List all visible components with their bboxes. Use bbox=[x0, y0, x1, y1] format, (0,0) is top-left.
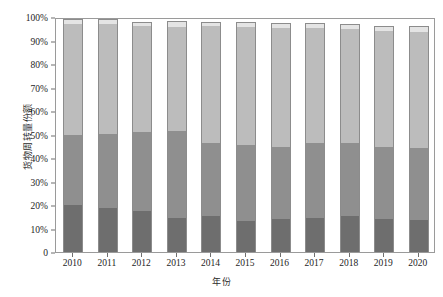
x-tick-mark bbox=[141, 253, 142, 257]
y-tick-label: 40% bbox=[8, 154, 48, 164]
y-tick-mark bbox=[51, 65, 55, 66]
bar-stack[interactable] bbox=[201, 22, 221, 252]
bar-stack[interactable] bbox=[340, 24, 360, 252]
y-tick-label: 90% bbox=[8, 37, 48, 47]
bar-stack[interactable] bbox=[167, 21, 187, 252]
bar-segment[interactable] bbox=[340, 29, 360, 142]
x-tick-mark bbox=[314, 253, 315, 257]
bar-segment[interactable] bbox=[167, 27, 187, 131]
bar-segment[interactable] bbox=[63, 24, 83, 135]
bar-stack[interactable] bbox=[63, 19, 83, 252]
bar-segment[interactable] bbox=[236, 27, 256, 145]
bar-group[interactable] bbox=[374, 19, 394, 252]
bar-stack[interactable] bbox=[374, 26, 394, 252]
bar-segment[interactable] bbox=[305, 28, 325, 143]
bar-segment[interactable] bbox=[98, 24, 118, 134]
bar-stack[interactable] bbox=[236, 22, 256, 252]
bar-segment[interactable] bbox=[63, 205, 83, 252]
x-tick-mark bbox=[349, 253, 350, 257]
y-tick-mark bbox=[51, 112, 55, 113]
y-tick-label: 100% bbox=[8, 13, 48, 23]
bar-segment[interactable] bbox=[63, 135, 83, 205]
x-axis-title: 年份 bbox=[0, 275, 443, 288]
bar-segment[interactable] bbox=[132, 211, 152, 252]
bar-segment[interactable] bbox=[340, 143, 360, 217]
y-tick-mark bbox=[51, 159, 55, 160]
bar-segment[interactable] bbox=[340, 216, 360, 252]
bar-segment[interactable] bbox=[236, 221, 256, 252]
y-tick-label: 20% bbox=[8, 201, 48, 211]
bar-segment[interactable] bbox=[132, 26, 152, 132]
plot-area bbox=[55, 18, 435, 253]
x-tick-label: 2020 bbox=[396, 258, 440, 268]
stacked-bar-chart: 货物周转量份额 010%20%30%40%50%60%70%80%90%100%… bbox=[0, 0, 443, 297]
bar-stack[interactable] bbox=[271, 23, 291, 252]
bar-stack[interactable] bbox=[409, 26, 429, 252]
bar-segment[interactable] bbox=[409, 220, 429, 252]
bar-group[interactable] bbox=[201, 19, 221, 252]
x-tick-mark bbox=[418, 253, 419, 257]
bar-segment[interactable] bbox=[236, 145, 256, 221]
bar-stack[interactable] bbox=[305, 23, 325, 252]
bar-segment[interactable] bbox=[271, 28, 291, 147]
y-tick-label: 80% bbox=[8, 60, 48, 70]
x-tick-mark bbox=[72, 253, 73, 257]
bar-group[interactable] bbox=[98, 19, 118, 252]
y-tick-label: 30% bbox=[8, 178, 48, 188]
bar-group[interactable] bbox=[167, 19, 187, 252]
x-tick-mark bbox=[176, 253, 177, 257]
bar-segment[interactable] bbox=[201, 143, 221, 216]
bar-group[interactable] bbox=[340, 19, 360, 252]
bar-segment[interactable] bbox=[374, 147, 394, 219]
y-tick-mark bbox=[51, 135, 55, 136]
bar-segment[interactable] bbox=[305, 143, 325, 217]
x-tick-mark bbox=[107, 253, 108, 257]
y-tick-label: 0 bbox=[8, 248, 48, 258]
bar-group[interactable] bbox=[63, 19, 83, 252]
y-tick-mark bbox=[51, 41, 55, 42]
bars-layer bbox=[56, 19, 434, 252]
y-tick-mark bbox=[51, 88, 55, 89]
bar-segment[interactable] bbox=[201, 216, 221, 252]
y-tick-label: 10% bbox=[8, 225, 48, 235]
bar-stack[interactable] bbox=[132, 22, 152, 252]
bar-group[interactable] bbox=[305, 19, 325, 252]
bar-segment[interactable] bbox=[374, 219, 394, 252]
x-tick-mark bbox=[383, 253, 384, 257]
bar-segment[interactable] bbox=[132, 132, 152, 212]
x-tick-mark bbox=[280, 253, 281, 257]
bar-segment[interactable] bbox=[409, 32, 429, 148]
bar-group[interactable] bbox=[271, 19, 291, 252]
bar-group[interactable] bbox=[409, 19, 429, 252]
bar-segment[interactable] bbox=[409, 148, 429, 220]
x-tick-mark bbox=[245, 253, 246, 257]
y-tick-mark bbox=[51, 253, 55, 254]
bar-segment[interactable] bbox=[271, 147, 291, 219]
bar-segment[interactable] bbox=[167, 218, 187, 252]
bar-stack[interactable] bbox=[98, 19, 118, 252]
bar-segment[interactable] bbox=[98, 134, 118, 209]
bar-group[interactable] bbox=[236, 19, 256, 252]
bar-segment[interactable] bbox=[271, 219, 291, 252]
y-tick-mark bbox=[51, 182, 55, 183]
bar-group[interactable] bbox=[132, 19, 152, 252]
x-tick-mark bbox=[210, 253, 211, 257]
y-tick-label: 60% bbox=[8, 107, 48, 117]
bar-segment[interactable] bbox=[167, 131, 187, 218]
y-tick-label: 50% bbox=[8, 131, 48, 141]
bar-segment[interactable] bbox=[201, 26, 221, 143]
y-tick-label: 70% bbox=[8, 84, 48, 94]
bar-segment[interactable] bbox=[305, 218, 325, 252]
bar-segment[interactable] bbox=[98, 208, 118, 252]
y-tick-mark bbox=[51, 229, 55, 230]
bar-segment[interactable] bbox=[374, 31, 394, 147]
y-tick-mark bbox=[51, 18, 55, 19]
y-tick-mark bbox=[51, 206, 55, 207]
